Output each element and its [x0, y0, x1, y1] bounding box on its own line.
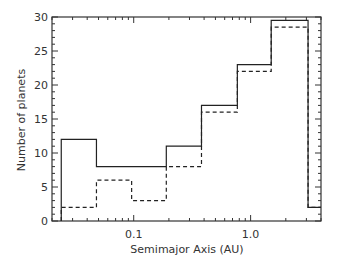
y-axis-title: Number of planets: [15, 69, 28, 172]
histogram-chart: 051015202530 0.11.0 Semimajor Axis (AU) …: [0, 0, 337, 266]
x-tick-label: 0.1: [125, 228, 143, 241]
dashed-histogram-line: [61, 27, 321, 221]
y-tick-label: 20: [34, 79, 48, 92]
solid-histogram-line: [61, 20, 321, 221]
y-axis-ticks: 051015202530: [34, 11, 321, 228]
y-tick-label: 30: [34, 11, 48, 24]
plot-frame: [52, 17, 321, 221]
y-tick-label: 25: [34, 45, 48, 58]
histogram-series: [61, 20, 321, 221]
y-tick-label: 15: [34, 113, 48, 126]
y-tick-label: 10: [34, 147, 48, 160]
y-tick-label: 0: [41, 215, 48, 228]
x-tick-label: 1.0: [242, 228, 260, 241]
y-tick-label: 5: [41, 181, 48, 194]
x-axis-title: Semimajor Axis (AU): [130, 243, 243, 256]
